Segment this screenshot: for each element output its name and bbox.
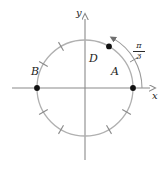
angle-denominator: 3 bbox=[131, 53, 147, 61]
circle-tick-mark bbox=[59, 42, 64, 51]
y-axis-label: y bbox=[76, 8, 82, 18]
point-label-b: B bbox=[31, 66, 39, 77]
plotted-point-d bbox=[106, 44, 112, 50]
angle-measure-label: π 3 bbox=[131, 42, 147, 61]
circle-tick-mark bbox=[122, 110, 131, 115]
point-label-a: A bbox=[111, 66, 119, 77]
unit-circle-figure: A B D x y π 3 bbox=[0, 0, 167, 170]
circle-tick-mark bbox=[39, 110, 48, 115]
x-axis-label: x bbox=[152, 91, 158, 101]
figure-canvas bbox=[0, 0, 167, 170]
circle-tick-mark bbox=[59, 125, 64, 134]
plotted-point-a bbox=[130, 85, 136, 91]
angle-numerator: π bbox=[131, 42, 147, 50]
plotted-point-b bbox=[34, 85, 40, 91]
circle-tick-mark bbox=[107, 125, 112, 134]
point-label-d: D bbox=[89, 53, 98, 64]
circle-tick-mark bbox=[39, 62, 48, 67]
